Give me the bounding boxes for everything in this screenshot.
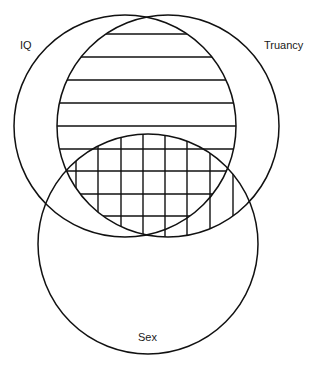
horizontal-hatching [0, 34, 317, 216]
iq-truancy-region [0, 34, 317, 216]
sex-circle [38, 134, 258, 354]
truancy-label: Truancy [264, 39, 304, 51]
sex-label: Sex [138, 331, 157, 343]
truancy-sex-region [76, 0, 233, 369]
vertical-hatching [76, 0, 233, 369]
iq-label: IQ [20, 39, 32, 51]
venn-diagram: IQ Truancy Sex [0, 0, 317, 369]
